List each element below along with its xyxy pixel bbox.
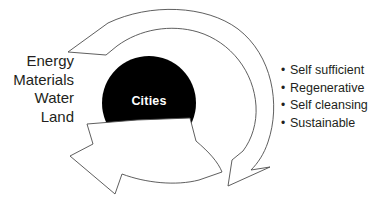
list-item: • Sustainable — [281, 115, 368, 133]
list-item: • Self sufficient — [281, 62, 368, 80]
input-label-energy: Energy — [4, 52, 74, 71]
input-label-land: Land — [4, 108, 74, 127]
diagram-canvas: Energy Materials Water Land Cities • Sel… — [0, 0, 383, 206]
cities-label: Cities — [109, 94, 189, 108]
input-label-materials: Materials — [4, 71, 74, 90]
list-item: • Regenerative — [281, 80, 368, 98]
outcomes-list: • Self sufficient • Regenerative • Self … — [281, 62, 368, 132]
input-label-water: Water — [4, 89, 74, 108]
bullet-icon: • — [281, 115, 290, 133]
inputs-list: Energy Materials Water Land — [4, 52, 74, 126]
outcome-label-sustainable: Sustainable — [290, 115, 355, 133]
list-item: • Self cleansing — [281, 97, 368, 115]
outcome-label-regenerative: Regenerative — [290, 80, 364, 98]
bullet-icon: • — [281, 62, 290, 80]
outcome-label-self-sufficient: Self sufficient — [290, 62, 364, 80]
outcome-label-self-cleansing: Self cleansing — [290, 97, 368, 115]
bullet-icon: • — [281, 80, 290, 98]
bullet-icon: • — [281, 97, 290, 115]
output-arrow — [70, 118, 222, 194]
